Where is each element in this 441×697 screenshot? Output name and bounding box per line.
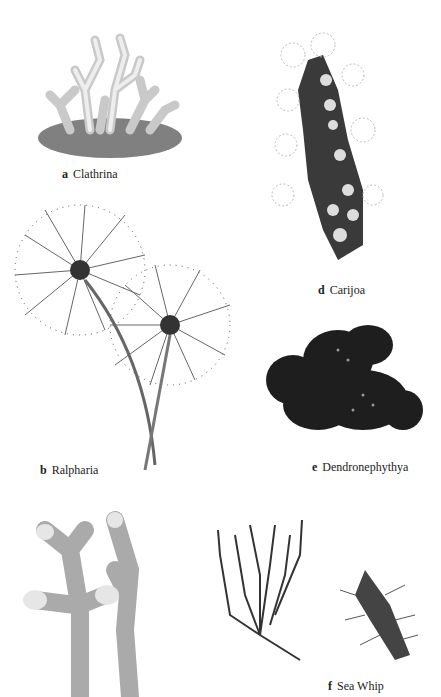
label-dendronephythya: eDendronephythya bbox=[312, 460, 408, 475]
label-ralpharia: bRalpharia bbox=[40, 463, 98, 478]
label-carijoa: dCarijoa bbox=[318, 283, 365, 298]
coral-branch-illustration bbox=[15, 510, 160, 697]
label-clathrina: aClathrina bbox=[62, 167, 118, 182]
carijoa-illustration bbox=[268, 30, 388, 270]
sea-whip-illustration bbox=[210, 515, 310, 665]
dendronephythya-illustration bbox=[258, 320, 428, 450]
clathrina-illustration bbox=[30, 30, 190, 160]
label-sea-whip: fSea Whip bbox=[328, 679, 384, 694]
sea-whip-detail-illustration bbox=[340, 565, 420, 665]
ralpharia-illustration bbox=[5, 195, 250, 475]
